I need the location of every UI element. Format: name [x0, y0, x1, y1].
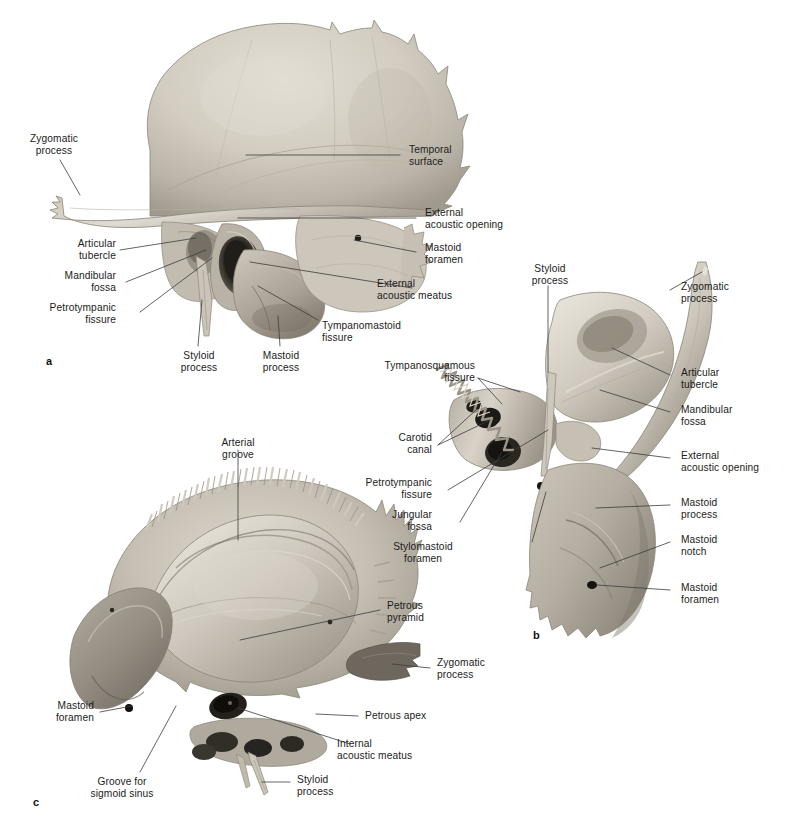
label-c-zygomatic-process: Zygomatic process — [437, 657, 537, 682]
panel-letter-b: b — [533, 629, 540, 641]
label-c-petrous-apex: Petrous apex — [365, 710, 461, 722]
label-b-styloid-process: Styloid process — [511, 263, 589, 288]
label-c-petrous-pyramid: Petrous pyramid — [387, 600, 473, 625]
panel-letter-a: a — [46, 355, 52, 367]
label-c-mastoid-foramen: Mastoid foramen — [0, 700, 94, 725]
anatomy-figure-plate: Zygomatic process Articular tubercle Man… — [0, 0, 790, 827]
label-a-articular-tubercle: Articular tubercle — [18, 238, 116, 263]
label-b-petrotympanic-fissure: Petrotympanic fissure — [316, 477, 432, 502]
label-a-mastoid-process: Mastoid process — [242, 350, 320, 375]
label-b-mandibular-fossa: Mandibular fossa — [681, 404, 785, 429]
label-a-temporal-surface: Temporal surface — [409, 144, 529, 169]
label-c-groove-for-sigmoid-sinus: Groove for sigmoid sinus — [70, 776, 174, 801]
label-a-external-acoustic-meatus: External acoustic meatus — [377, 278, 517, 303]
label-b-mastoid-notch: Mastoid notch — [681, 534, 781, 559]
label-b-zygomatic-process: Zygomatic process — [681, 281, 781, 306]
label-b-carotid-canal: Carotid canal — [360, 432, 432, 457]
label-b-mastoid-foramen: Mastoid foramen — [681, 582, 781, 607]
label-c-styloid-process: Styloid process — [297, 774, 385, 799]
label-a-petrotympanic-fissure: Petrotympanic fissure — [0, 302, 116, 327]
label-a-styloid-process: Styloid process — [160, 350, 238, 375]
label-a-zygomatic-process: Zygomatic process — [8, 133, 100, 158]
panel-letter-c: c — [33, 796, 39, 808]
panel-b-bone — [436, 262, 712, 638]
label-b-external-acoustic-opening: External acoustic opening — [681, 450, 789, 475]
leader-lines — [60, 155, 702, 782]
label-b-mastoid-process: Mastoid process — [681, 497, 781, 522]
anatomy-illustration — [0, 0, 790, 827]
label-c-arterial-groove: Arterial groove — [199, 437, 277, 462]
label-b-stylomastoid-foramen: Stylomastoid foramen — [371, 541, 475, 566]
label-b-tympanosquamous-fissure: Tympanosquamous fissure — [349, 360, 475, 385]
label-c-internal-acoustic-meatus: Internal acoustic meatus — [337, 738, 467, 763]
label-a-external-acoustic-opening: External acoustic opening — [425, 207, 565, 232]
label-a-mandibular-fossa: Mandibular fossa — [10, 270, 116, 295]
label-b-articular-tubercle: Articular tubercle — [681, 367, 781, 392]
label-a-tympanomastoid-fissure: Tympanomastoid fissure — [322, 320, 450, 345]
label-b-jungular-fossa: Jungular fossa — [362, 509, 432, 534]
